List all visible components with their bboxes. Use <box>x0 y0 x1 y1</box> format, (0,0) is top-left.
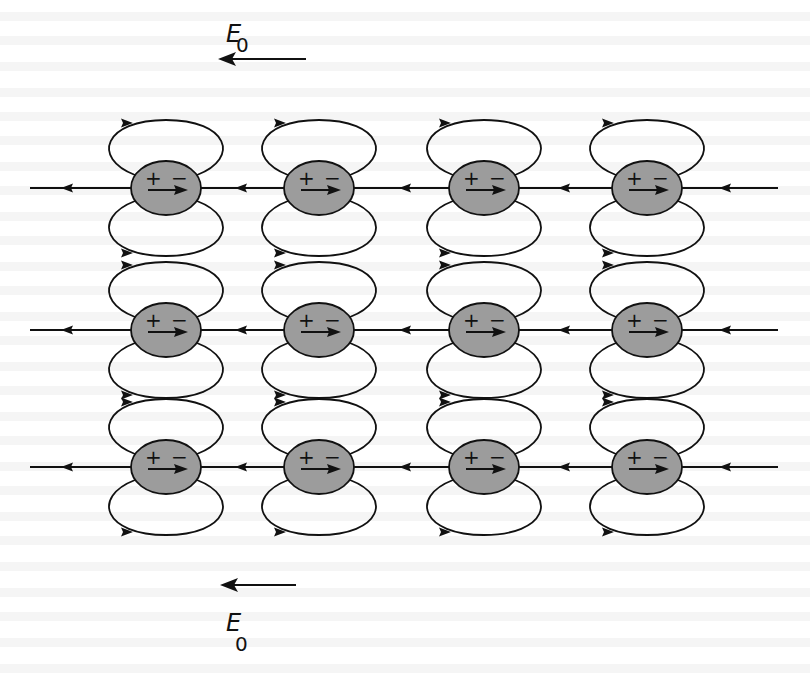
dipole-row: +−+−+−+− <box>30 119 778 258</box>
negative-charge-label: − <box>324 445 341 469</box>
atom-body <box>284 161 354 215</box>
negative-charge-label: − <box>171 308 188 332</box>
negative-charge-label: − <box>489 166 506 190</box>
atom-body <box>612 303 682 357</box>
atom-body <box>612 161 682 215</box>
positive-charge-label: + <box>626 166 643 190</box>
negative-charge-label: − <box>171 166 188 190</box>
atom-body <box>131 440 201 494</box>
negative-charge-label: − <box>489 445 506 469</box>
dipole-rows: +−+−+−+−+−+−+−+−+−+−+−+− <box>30 119 778 537</box>
atom-body <box>449 161 519 215</box>
negative-charge-label: − <box>652 308 669 332</box>
negative-charge-label: − <box>171 445 188 469</box>
positive-charge-label: + <box>463 308 480 332</box>
atom-body <box>131 161 201 215</box>
positive-charge-label: + <box>145 166 162 190</box>
positive-charge-label: + <box>298 166 315 190</box>
field-top-subscript: 0 <box>236 33 249 57</box>
field-bottom: E 0 <box>220 578 296 656</box>
positive-charge-label: + <box>626 445 643 469</box>
positive-charge-label: + <box>463 445 480 469</box>
atom-body <box>131 303 201 357</box>
positive-charge-label: + <box>298 308 315 332</box>
field-top: E 0 <box>218 20 306 66</box>
negative-charge-label: − <box>652 166 669 190</box>
atom-body <box>284 440 354 494</box>
positive-charge-label: + <box>145 445 162 469</box>
atom-body <box>449 303 519 357</box>
negative-charge-label: − <box>489 308 506 332</box>
negative-charge-label: − <box>324 308 341 332</box>
positive-charge-label: + <box>626 308 643 332</box>
dipole-row: +−+−+−+− <box>30 398 778 537</box>
dipole-row: +−+−+−+− <box>30 261 778 400</box>
positive-charge-label: + <box>145 308 162 332</box>
polarized-atom-array-diagram: E 0 E 0 +−+−+−+−+−+−+−+−+−+−+−+− <box>0 0 810 678</box>
atom-body <box>449 440 519 494</box>
field-bottom-subscript: 0 <box>235 632 248 656</box>
positive-charge-label: + <box>463 166 480 190</box>
positive-charge-label: + <box>298 445 315 469</box>
negative-charge-label: − <box>324 166 341 190</box>
atom-body <box>612 440 682 494</box>
atom-body <box>284 303 354 357</box>
negative-charge-label: − <box>652 445 669 469</box>
